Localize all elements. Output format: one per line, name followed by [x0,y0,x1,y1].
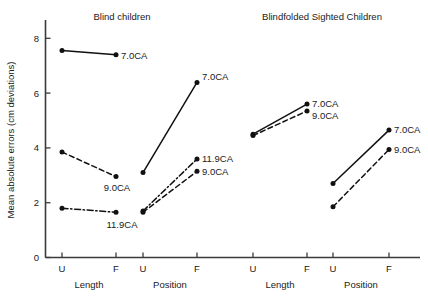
series-label-p3-9-0ca: 9.0CA [312,110,339,121]
x-tick-label-7: U [330,263,337,274]
series-line-p1-7-0ca [62,51,116,55]
series-label-p2-7-0ca: 7.0CA [202,71,229,82]
y-tick-label-8: 8 [34,33,39,44]
y-tick-label-2: 2 [34,197,39,208]
data-point [114,52,119,57]
panel-1-blind-length: 7.0CA 9.0CA 11.9CA [60,48,149,230]
series-line-p1-11-9ca [62,208,116,212]
panel-2-blind-position: 7.0CA 11.9CA 9.0CA [141,71,234,215]
x-tick-label-2: F [113,263,119,274]
data-point [114,210,119,215]
group-labels: Length Position Length Position [74,279,377,290]
data-point [251,133,256,138]
panel-titles: Blind children Blindfolded Sighted Child… [93,11,381,22]
series-line-p4-7-0ca [333,130,389,183]
x-tick-label-6: F [304,263,310,274]
panel-3-blindfolded-length: 7.0CA 9.0CA [251,98,340,138]
x-tick-label-4: F [194,263,200,274]
panel-4-blindfolded-position: 7.0CA 9.0CA [331,124,422,209]
series-label-p4-7-0ca: 7.0CA [394,124,421,135]
figure-container: 0 2 4 6 8 Mean absolute errors (cm devia… [0,0,428,301]
y-axis-title: Mean absolute errors (cm deviations) [5,62,16,219]
series-line-p2-7-0ca [143,82,197,172]
panel-title-blind-children: Blind children [93,11,150,22]
data-point [195,157,200,162]
data-point [195,80,200,85]
series-line-p3-7-0ca [253,104,307,134]
x-tick-label-5: U [250,263,257,274]
data-point [60,48,65,53]
y-tick-label-0: 0 [34,252,39,263]
group-label-length-1: Length [74,279,103,290]
series-label-p4-9-0ca: 9.0CA [394,144,421,155]
series-line-p2-9-0ca [143,171,197,212]
data-point [387,128,392,133]
series-label-p2-11-9ca: 11.9CA [202,153,234,164]
data-point [141,210,146,215]
panel-title-blindfolded-sighted-children: Blindfolded Sighted Children [262,11,382,22]
series-label-p3-7-0ca: 7.0CA [312,98,339,109]
x-tick-label-1: U [59,263,66,274]
group-label-position-1: Position [153,279,187,290]
series-line-p2-11-9ca [143,159,197,211]
data-point [387,147,392,152]
data-point [60,150,65,155]
data-point [331,181,336,186]
series-label-p1-7-0ca: 7.0CA [121,50,148,61]
series-line-p1-9-0ca [62,152,116,177]
line-chart: 0 2 4 6 8 Mean absolute errors (cm devia… [0,0,428,301]
series-label-p1-11-9ca: 11.9CA [107,219,139,230]
data-point [60,206,65,211]
data-point [195,169,200,174]
data-point [331,204,336,209]
axes [46,20,421,258]
y-tick-label-6: 6 [34,88,39,99]
x-tick-label-8: F [386,263,392,274]
data-point [305,102,310,107]
x-tick-label-3: U [140,263,147,274]
group-label-length-2: Length [265,279,294,290]
data-point [141,170,146,175]
data-point [305,109,310,114]
y-tick-label-4: 4 [34,142,39,153]
series-label-p2-9-0ca: 9.0CA [202,166,229,177]
data-point [114,174,119,179]
series-line-p4-9-0ca [333,150,389,207]
series-line-p3-9-0ca [253,111,307,136]
y-ticks: 0 2 4 6 8 [34,33,51,263]
series-label-p1-9-0ca: 9.0CA [104,182,131,193]
group-label-position-2: Position [344,279,378,290]
x-ticks: U F U F U F U F [59,253,393,275]
